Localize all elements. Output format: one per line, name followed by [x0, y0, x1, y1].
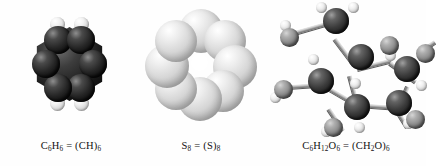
ring-center-hole: [192, 55, 207, 70]
benzene-formula-h-sub: 6: [60, 145, 64, 153]
glucose-formula-o-sub: 6: [336, 145, 340, 153]
hydrogen-sphere: [348, 2, 359, 13]
carbon-sphere: [32, 50, 60, 78]
sulfur-equals: =: [194, 140, 200, 151]
glucose-ball-and-stick-model: [266, 0, 426, 134]
glucose-equals: =: [343, 140, 349, 151]
benzene-empirical-body: CH: [79, 140, 94, 151]
benzene-empirical-sub: 6: [98, 145, 102, 153]
oxygen-sphere: [324, 118, 343, 137]
sulfur-formula-s-sub: 8: [188, 145, 192, 153]
octasulfur-space-filling-model: [136, 0, 266, 134]
caption-glucose: C6H12O6 = (CH2O)6: [266, 140, 426, 151]
oxygen-sphere: [416, 44, 435, 63]
sulfur-sphere: [155, 20, 197, 62]
benzene-formula-c: C: [41, 140, 48, 151]
carbon-sphere: [386, 90, 412, 116]
glucose-empirical-body-ch: CH: [356, 140, 371, 151]
carbon-sphere: [344, 94, 370, 120]
carbon-sphere: [308, 68, 334, 94]
sulfur-empirical-sub: 8: [217, 145, 221, 153]
panel-benzene: C6H6 = (CH)6: [0, 0, 142, 166]
carbon-sphere: [348, 44, 374, 70]
benzene-equals: =: [66, 140, 72, 151]
oxygen-sphere: [280, 28, 299, 47]
hydrogen-sphere: [308, 54, 319, 65]
oxygen-sphere: [274, 80, 293, 99]
hydrogen-sphere: [350, 78, 361, 89]
benzene-space-filling-model: [0, 0, 142, 134]
caption-benzene: C6H6 = (CH)6: [0, 140, 142, 151]
caption-octasulfur: S8 = (S)8: [136, 140, 266, 151]
glucose-formula-h-sub: 12: [321, 145, 329, 153]
panel-glucose: C6H12O6 = (CH2O)6: [266, 0, 426, 166]
hydrogen-sphere: [416, 80, 427, 91]
benzene-formula-h: H: [52, 140, 60, 151]
carbon-sphere: [323, 8, 349, 34]
oxygen-sphere: [406, 110, 425, 129]
panel-octasulfur: S8 = (S)8: [136, 0, 266, 166]
glucose-empirical-sub: 6: [386, 145, 390, 153]
glucose-formula-h: H: [313, 140, 321, 151]
carbon-sphere: [394, 56, 420, 82]
hydrogen-sphere: [354, 122, 365, 133]
oxygen-sphere: [380, 36, 399, 55]
carbon-sphere: [44, 74, 72, 102]
